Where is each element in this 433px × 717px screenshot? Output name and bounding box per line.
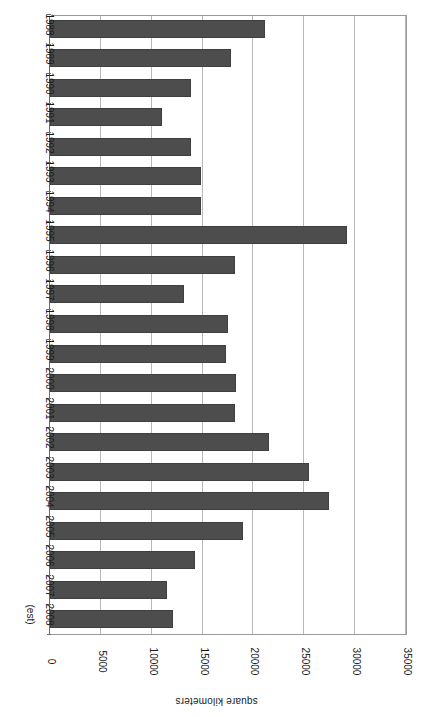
bar	[50, 433, 269, 451]
bar	[50, 256, 235, 274]
value-axis-title: square kilometers	[0, 696, 433, 707]
bar	[50, 463, 309, 481]
category-label: 1993	[44, 161, 55, 183]
category-tick	[47, 634, 51, 635]
category-label: 2002	[44, 426, 55, 448]
category-label: 1988	[44, 13, 55, 35]
category-label: 2001	[44, 397, 55, 419]
category-label: 2006	[44, 545, 55, 567]
bars-layer	[51, 16, 406, 634]
bar-chart-figure: square kilometers 0500010000150002000025…	[0, 0, 433, 717]
bar	[50, 49, 231, 67]
category-label: 1997	[44, 279, 55, 301]
category-label: 2004	[44, 486, 55, 508]
category-label: 2005	[44, 515, 55, 537]
bar	[50, 522, 243, 540]
value-tick-label: 0	[46, 659, 57, 665]
bar	[50, 315, 228, 333]
category-axis-note: (est)	[25, 605, 36, 625]
bar	[50, 285, 184, 303]
value-tick-label: 25000	[300, 648, 311, 676]
bar	[50, 492, 329, 510]
bar	[50, 20, 265, 38]
value-tick-label: 20000	[249, 648, 260, 676]
value-axis-tick-labels: 05000100001500020000250003000035000	[0, 635, 433, 681]
value-tick-label: 5000	[96, 650, 107, 672]
value-tick-label: 10000	[147, 648, 158, 676]
bar	[50, 226, 347, 244]
category-axis: 1988198919901991199219931994199519961997…	[0, 15, 51, 635]
bar	[50, 551, 195, 569]
bar	[50, 197, 201, 215]
value-tick-label: 35000	[402, 648, 413, 676]
category-label: 2008	[44, 604, 55, 626]
category-label: 2007	[44, 574, 55, 596]
bar	[50, 581, 167, 599]
bar	[50, 167, 201, 185]
category-label: 1999	[44, 338, 55, 360]
bar	[50, 345, 226, 363]
category-label: 1995	[44, 220, 55, 242]
category-label: 2003	[44, 456, 55, 478]
bar	[50, 79, 191, 97]
category-label: 2000	[44, 367, 55, 389]
bar	[50, 610, 173, 628]
category-label: 1996	[44, 249, 55, 271]
bar	[50, 374, 236, 392]
category-label: 1998	[44, 308, 55, 330]
category-label: 1992	[44, 131, 55, 153]
category-label: 1991	[44, 102, 55, 124]
value-tick-label: 30000	[351, 648, 362, 676]
chart-rotation-wrapper: square kilometers 0500010000150002000025…	[0, 0, 433, 717]
bar	[50, 108, 162, 126]
bar	[50, 138, 191, 156]
category-label: 1990	[44, 72, 55, 94]
category-label: 1994	[44, 190, 55, 212]
category-label: 1989	[44, 43, 55, 65]
value-tick-label: 15000	[198, 648, 209, 676]
bar	[50, 404, 235, 422]
plot-area	[51, 15, 407, 635]
